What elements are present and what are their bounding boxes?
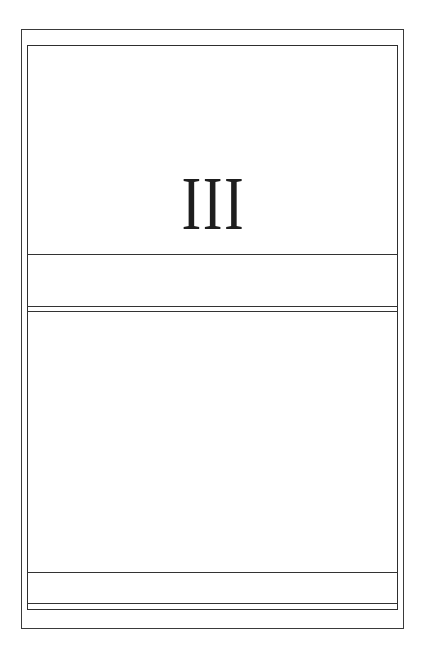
- rule-below-title: [27, 254, 398, 255]
- rule-upper-double-2: [27, 311, 398, 312]
- section-numeral: III: [46, 160, 380, 246]
- inner-border-frame: [27, 45, 398, 610]
- rule-lower-2: [27, 603, 398, 604]
- rule-upper-double-1: [27, 306, 398, 307]
- rule-lower-1: [27, 572, 398, 573]
